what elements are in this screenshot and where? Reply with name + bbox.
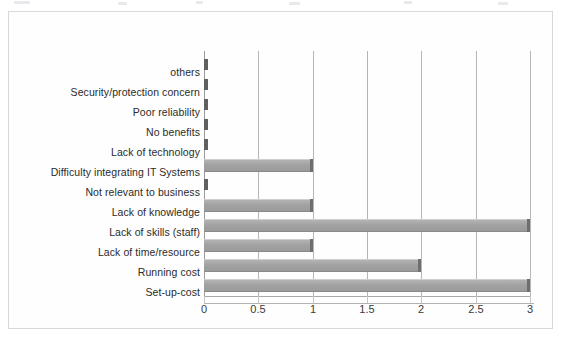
x-tick-mark xyxy=(530,296,531,303)
y-axis-category-labels: others Security/protection concern Poor … xyxy=(0,51,200,296)
bar-lack-of-knowledge xyxy=(204,199,313,212)
category-label: Lack of technology xyxy=(4,146,200,158)
x-tick-label: 3 xyxy=(527,303,533,315)
bar-chart: others Security/protection concern Poor … xyxy=(0,0,572,342)
x-tick-label: 0.5 xyxy=(250,303,265,315)
bar-lack-of-skills-staff xyxy=(204,219,530,232)
category-label: Set-up-cost xyxy=(4,286,200,298)
bar-running-cost xyxy=(204,259,421,272)
bar-lack-of-technology xyxy=(204,139,208,150)
category-label: No benefits xyxy=(4,126,200,138)
category-label: Poor reliability xyxy=(4,106,200,118)
x-tick-mark xyxy=(313,296,314,303)
x-tick-mark xyxy=(204,296,205,303)
gridline-2.5 xyxy=(476,51,477,296)
category-label: Security/protection concern xyxy=(4,86,200,98)
x-tick-mark xyxy=(258,296,259,303)
gridline-3 xyxy=(530,51,531,296)
bar-set-up-cost xyxy=(204,279,530,292)
category-label: Difficulty integrating IT Systems xyxy=(4,166,200,178)
x-tick-mark xyxy=(421,296,422,303)
category-label: others xyxy=(4,66,200,78)
category-label: Lack of time/resource xyxy=(4,246,200,258)
gridline-2 xyxy=(421,51,422,296)
category-label: Lack of skills (staff) xyxy=(4,226,200,238)
x-tick-mark xyxy=(367,296,368,303)
x-tick-mark xyxy=(476,296,477,303)
bar-not-relevant-to-business xyxy=(204,179,208,190)
bar-poor-reliability xyxy=(204,99,208,110)
category-label: Running cost xyxy=(4,266,200,278)
x-tick-label: 2 xyxy=(418,303,424,315)
bar-security-protection-concern xyxy=(204,79,208,90)
x-tick-label: 1.5 xyxy=(359,303,374,315)
plot-area xyxy=(204,51,530,296)
category-label: Not relevant to business xyxy=(4,186,200,198)
x-tick-label: 0 xyxy=(201,303,207,315)
bar-lack-of-time-resource xyxy=(204,239,313,252)
bar-no-benefits xyxy=(204,119,208,130)
category-label: Lack of knowledge xyxy=(4,206,200,218)
bar-difficulty-integrating-it-systems xyxy=(204,159,313,172)
x-tick-label: 2.5 xyxy=(468,303,483,315)
x-tick-label: 1 xyxy=(310,303,316,315)
x-axis-tick-labels: 0 0.5 1 1.5 2 2.5 3 xyxy=(0,303,572,319)
bar-others xyxy=(204,59,208,70)
